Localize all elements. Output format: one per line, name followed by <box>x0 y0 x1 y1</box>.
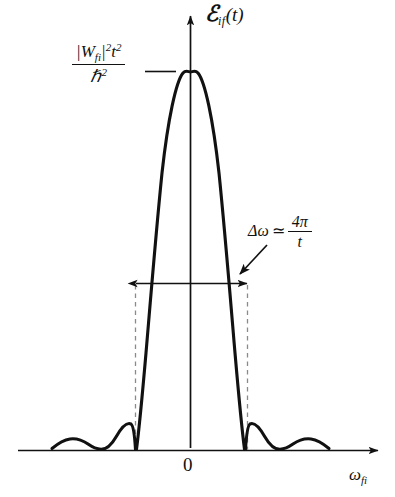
x-axis-label: ωfi <box>349 466 367 486</box>
x-axis-symbol: ω <box>349 465 361 484</box>
peak-amplitude-denominator: ℏ2 <box>72 65 125 85</box>
peak-amplitude-label: |Wfi|2t2 ℏ2 <box>72 42 125 85</box>
approx-equal-symbol: ≃ <box>269 222 288 239</box>
width-annotation-label: Δω≃ 4π t <box>248 214 312 250</box>
y-axis-label: ℰif(t) <box>205 2 244 27</box>
x-axis-subscript: fi <box>361 474 367 486</box>
time-exponent: 2 <box>116 41 122 53</box>
width-numerator: 4π <box>288 214 312 232</box>
y-axis-argument: (t) <box>226 4 244 25</box>
delta-symbol: Δ <box>248 222 257 239</box>
peak-amplitude-numerator: |Wfi|2t2 <box>72 42 125 65</box>
y-axis-symbol: ℰ <box>205 0 218 26</box>
w-matrix-element: |W <box>76 42 95 61</box>
origin-label: 0 <box>183 455 193 474</box>
hbar-exponent: 2 <box>101 66 107 78</box>
width-fraction: 4π t <box>288 214 312 250</box>
sinc-squared-figure <box>0 0 395 497</box>
hbar-symbol: ℏ <box>90 67 101 86</box>
peak-amplitude-fraction: |Wfi|2t2 ℏ2 <box>72 42 125 85</box>
y-axis-subscript: if <box>218 14 226 28</box>
omega-symbol: ω <box>257 222 268 239</box>
width-denominator: t <box>288 232 312 250</box>
